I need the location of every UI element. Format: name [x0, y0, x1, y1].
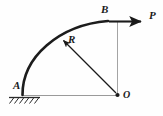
label-point-a: A: [13, 80, 20, 91]
figure-drawing: [0, 0, 163, 116]
label-radius-r: R: [68, 34, 75, 45]
center-point-dot: [115, 93, 119, 97]
label-point-b: B: [101, 4, 108, 15]
curved-bar-arc: [22, 21, 108, 95]
figure-canvas: A B P R O: [0, 0, 163, 116]
support-hatching: [10, 98, 40, 104]
label-force-p: P: [149, 10, 156, 21]
label-center-o: O: [123, 90, 130, 100]
radius-arrow: [64, 41, 117, 94]
